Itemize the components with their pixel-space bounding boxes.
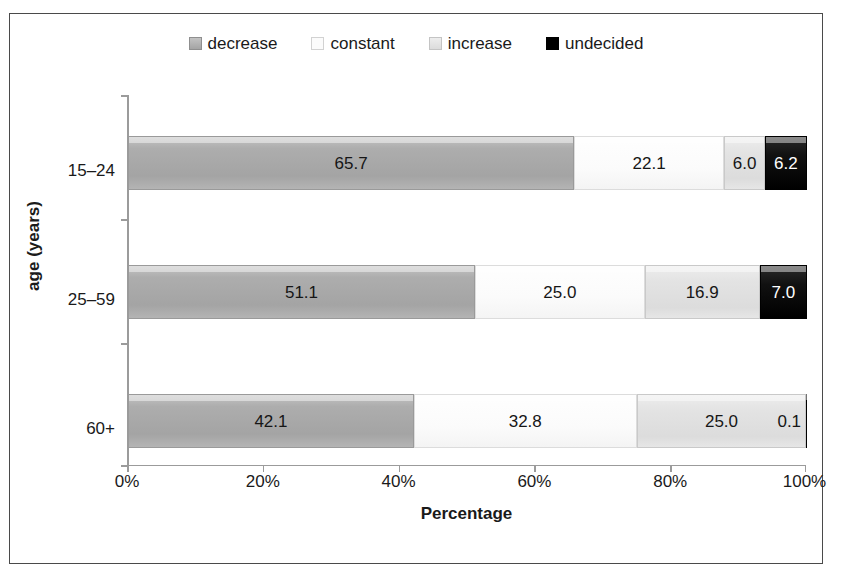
y-category-label-1: 25–59	[68, 291, 115, 308]
bar-value-label: 25.0	[705, 413, 738, 430]
bar-row-60-plus: 42.1 32.8 25.0 0.1	[128, 394, 807, 448]
y-axis-tick-2	[121, 343, 127, 345]
x-tick-label-4: 80%	[653, 473, 687, 490]
legend-item-undecided[interactable]: undecided	[546, 35, 643, 52]
x-axis-line	[127, 465, 806, 467]
bar-segment-decrease[interactable]: 65.7	[128, 136, 574, 190]
y-axis-title: age (years)	[24, 156, 44, 336]
bar-value-label: 65.7	[335, 155, 368, 172]
y-category-label-2: 60+	[86, 420, 115, 437]
bar-value-label: 22.1	[633, 155, 666, 172]
bar-value-label: 7.0	[772, 284, 796, 301]
bar-segment-undecided[interactable]: 0.1	[806, 394, 807, 448]
bar-value-label: 25.0	[543, 284, 576, 301]
legend-item-decrease[interactable]: decrease	[189, 35, 278, 52]
x-tick-label-5: 100%	[783, 473, 826, 490]
bar-value-label: 32.8	[509, 413, 542, 430]
legend-swatch-increase	[429, 37, 442, 50]
plot-area: 65.7 22.1 6.0 6.2 51.1 25.0 16.9	[127, 78, 806, 466]
x-axis-tick-labels: 0% 20% 40% 60% 80% 100%	[127, 473, 806, 497]
bar-value-label: 16.9	[686, 284, 719, 301]
bar-value-label: 0.1	[777, 413, 801, 430]
y-axis-tick-1	[121, 219, 127, 221]
legend-swatch-constant	[311, 37, 324, 50]
legend-swatch-undecided	[546, 37, 559, 50]
legend-label-decrease: decrease	[208, 35, 278, 52]
bar-segment-undecided[interactable]: 7.0	[760, 265, 808, 319]
legend-label-increase: increase	[448, 35, 512, 52]
legend-label-constant: constant	[330, 35, 394, 52]
bar-segment-constant[interactable]: 32.8	[414, 394, 637, 448]
x-tick-label-2: 40%	[382, 473, 416, 490]
bar-row-15-24: 65.7 22.1 6.0 6.2	[128, 136, 807, 190]
x-tick-label-3: 60%	[517, 473, 551, 490]
bar-segment-increase[interactable]: 6.0	[724, 136, 765, 190]
bar-value-label: 51.1	[285, 284, 318, 301]
legend-item-constant[interactable]: constant	[311, 35, 394, 52]
bar-segment-constant[interactable]: 25.0	[475, 265, 645, 319]
bar-value-label: 6.2	[774, 155, 798, 172]
bar-value-label: 42.1	[254, 413, 287, 430]
legend-label-undecided: undecided	[565, 35, 643, 52]
bar-segment-decrease[interactable]: 51.1	[128, 265, 475, 319]
x-tick-label-0: 0%	[115, 473, 140, 490]
bar-segment-constant[interactable]: 22.1	[574, 136, 724, 190]
y-category-label-0: 15–24	[68, 162, 115, 179]
figure-frame: decrease constant increase undecided 15–…	[9, 13, 823, 564]
chart-legend: decrease constant increase undecided	[10, 35, 822, 52]
bar-row-25-59: 51.1 25.0 16.9 7.0	[128, 265, 807, 319]
x-axis-title: Percentage	[127, 504, 806, 524]
bar-segment-increase[interactable]: 16.9	[645, 265, 760, 319]
legend-item-increase[interactable]: increase	[429, 35, 512, 52]
bar-segment-undecided[interactable]: 6.2	[765, 136, 807, 190]
x-tick-label-1: 20%	[246, 473, 280, 490]
y-axis-tick-0	[121, 95, 127, 97]
bar-value-label: 6.0	[733, 155, 757, 172]
legend-swatch-decrease	[189, 37, 202, 50]
bar-segment-decrease[interactable]: 42.1	[128, 394, 414, 448]
